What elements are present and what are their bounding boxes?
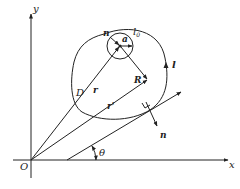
boundary-direction-arrow [164, 62, 169, 68]
domain-boundary [72, 29, 167, 119]
radius-a-label: a [122, 34, 128, 44]
diagram: y x O D l l0 n a r r' R n θ [0, 0, 240, 189]
vector-R-label: R [133, 75, 142, 85]
vector-r-label: r [93, 85, 99, 95]
angle-theta-arc [92, 146, 96, 160]
vector-r [31, 47, 119, 160]
domain-label: D [75, 87, 84, 98]
vector-r-prime-label: r' [107, 101, 115, 111]
outer-normal-label: n [160, 130, 167, 140]
inner-boundary-label: l0 [133, 26, 140, 38]
angle-theta-label: θ [99, 147, 105, 158]
origin-label: O [20, 161, 28, 172]
inner-normal-arrow [110, 37, 119, 45]
inner-normal-label: n [103, 28, 110, 38]
y-axis-label: y [32, 3, 39, 14]
tangent-line [67, 92, 181, 160]
vector-r-prime [31, 80, 147, 160]
boundary-l-label: l [172, 59, 176, 70]
x-axis-label: x [229, 159, 235, 170]
